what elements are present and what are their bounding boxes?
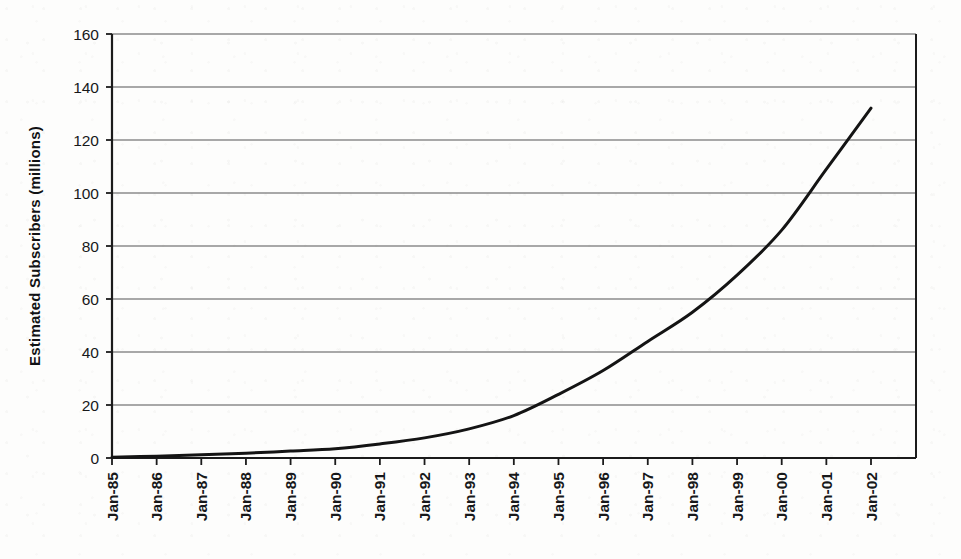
gridlines-group [112, 34, 916, 405]
x-axis-tick-label: Jan-96 [595, 472, 612, 521]
x-axis-tick-label: Jan-01 [818, 472, 835, 521]
y-axis-tick-label: 80 [82, 238, 100, 255]
x-axis-tick-label: Jan-91 [371, 472, 388, 521]
y-axis-tick-label: 140 [73, 79, 99, 96]
x-axis-tick-label: Jan-95 [550, 472, 567, 521]
x-axis-tick-label: Jan-02 [863, 472, 880, 521]
x-axis-tick-label: Jan-93 [461, 472, 478, 521]
x-axis-tick-label: Jan-87 [193, 472, 210, 521]
x-axis-tick-label: Jan-99 [729, 472, 746, 521]
x-axis-tick-label: Jan-89 [282, 472, 299, 521]
x-axis-tick-label: Jan-92 [416, 472, 433, 521]
x-axis-tick-label: Jan-00 [773, 472, 790, 521]
x-axis-tick-label: Jan-88 [237, 472, 254, 521]
y-axis-tick-label: 40 [82, 344, 100, 361]
x-axis-tick-labels-group: Jan-85Jan-86Jan-87Jan-88Jan-89Jan-90Jan-… [104, 472, 880, 521]
y-axis-tick-label: 20 [82, 397, 100, 414]
y-axis-tick-label: 0 [90, 450, 99, 467]
y-axis-tick-label: 160 [73, 26, 99, 43]
y-axis-tick-label: 60 [82, 291, 100, 308]
subscribers-line-chart: 020406080100120140160 Jan-85Jan-86Jan-87… [0, 0, 961, 559]
x-axis-tick-label: Jan-90 [327, 472, 344, 521]
x-axis-tick-label: Jan-98 [684, 472, 701, 521]
y-axis-tick-label: 100 [73, 185, 99, 202]
x-axis-tick-label: Jan-94 [505, 472, 522, 521]
y-axis-tick-labels-group: 020406080100120140160 [73, 26, 99, 467]
x-axis-tick-label: Jan-85 [104, 472, 121, 521]
y-axis-tick-label: 120 [73, 132, 99, 149]
chart-container: 020406080100120140160 Jan-85Jan-86Jan-87… [0, 0, 961, 559]
x-axis-tick-label: Jan-86 [148, 472, 165, 521]
x-axis-tick-label: Jan-97 [639, 472, 656, 521]
y-axis-title: Estimated Subscribers (millions) [26, 126, 43, 366]
